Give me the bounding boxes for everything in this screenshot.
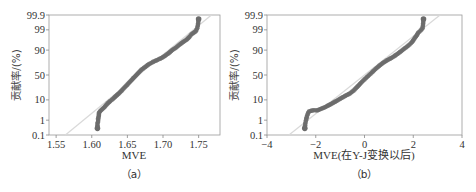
x-tick-label: 4 — [459, 139, 465, 150]
y-tick-label: 99 — [253, 24, 264, 35]
x-tick-label: −4 — [261, 139, 273, 150]
caption-a: （a） — [121, 168, 147, 180]
panel-b: 0.111050909999.9 −4−2024 MVE(在Y-J变换以后) 贡… — [228, 10, 465, 181]
caption-b: （b） — [351, 168, 378, 180]
x-axis-label-a: MVE — [122, 149, 147, 161]
x-tick-label: 1.75 — [189, 139, 207, 150]
x-axis-ticks-a: 1.551.601.651.701.75 — [47, 135, 208, 150]
y-tick-label: 10 — [253, 94, 264, 105]
y-tick-label: 50 — [253, 70, 264, 81]
y-tick-label: 99.9 — [27, 10, 45, 21]
y-tick-label: 1 — [258, 115, 263, 126]
y-axis-label-b: 贡献率/(%) — [228, 49, 240, 101]
x-axis-label-b: MVE(在Y-J变换以后) — [313, 148, 415, 162]
y-tick-label: 10 — [35, 94, 46, 105]
x-tick-label: 1.70 — [154, 139, 172, 150]
x-tick-label: 1.55 — [47, 139, 65, 150]
y-axis-ticks-a: 0.111050909999.9 — [27, 10, 49, 141]
y-tick-label: 90 — [35, 45, 46, 56]
y-axis-label-a: 贡献率/(%) — [10, 49, 22, 101]
x-tick-label: 1.60 — [83, 139, 101, 150]
probability-plots: 0.111050909999.9 1.551.601.651.701.75 MV… — [0, 0, 476, 192]
y-tick-label: 90 — [253, 45, 264, 56]
y-tick-label: 99 — [35, 24, 46, 35]
y-tick-label: 99.9 — [245, 10, 263, 21]
panel-a: 0.111050909999.9 1.551.601.651.701.75 MV… — [10, 10, 220, 181]
y-tick-label: 50 — [35, 70, 46, 81]
y-tick-label: 0.1 — [32, 130, 45, 141]
y-axis-ticks-b: 0.111050909999.9 — [245, 10, 267, 141]
x-axis-ticks-b: −4−2024 — [261, 135, 465, 150]
y-tick-label: 1 — [40, 115, 45, 126]
